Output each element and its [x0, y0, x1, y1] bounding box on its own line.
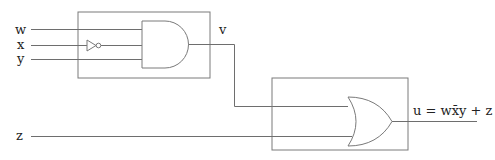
not-gate	[87, 40, 101, 51]
logic-circuit-diagram: w x y z v u = wx̄y + z	[0, 0, 495, 160]
wire-v	[189, 45, 349, 107]
input-label-x: x	[17, 37, 25, 52]
and-gate-icon	[142, 21, 189, 68]
not-triangle-icon	[87, 40, 96, 51]
input-label-z: z	[16, 128, 23, 143]
input-label-y: y	[16, 51, 25, 66]
input-label-w: w	[15, 22, 26, 37]
not-bubble-icon	[96, 43, 101, 48]
output-expression: u = wx̄y + z	[413, 103, 492, 118]
block2-box	[272, 78, 408, 150]
intermediate-label-v: v	[218, 22, 227, 37]
or-gate-icon	[348, 97, 392, 146]
